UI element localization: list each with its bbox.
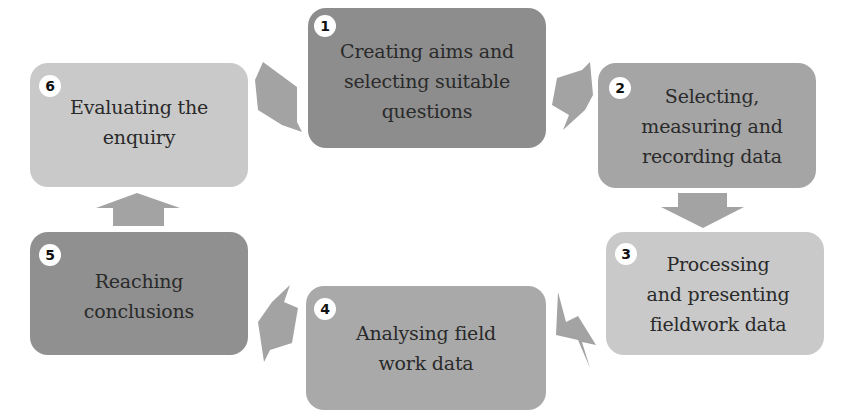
step-label: Creating aims and selecting suitable que… — [340, 30, 514, 126]
step-number-badge: 4 — [314, 298, 336, 320]
step-number-badge: 1 — [314, 15, 336, 37]
step-box-2: 2 Selecting, measuring and recording dat… — [598, 63, 816, 188]
step-number-badge: 2 — [609, 77, 631, 99]
step-label: Analysing field work data — [356, 318, 496, 378]
step-box-3: 3 Processing and presenting fieldwork da… — [606, 232, 824, 355]
step-label: Evaluating the enquiry — [70, 92, 208, 158]
step-label: Reaching conclusions — [84, 262, 194, 326]
step-box-4: 4 Analysing field work data — [306, 286, 546, 410]
arrow-1-to-2-icon — [552, 62, 593, 130]
arrow-6-to-1-icon — [255, 62, 302, 132]
step-box-5: 5 Reaching conclusions — [30, 232, 248, 355]
arrow-3-to-4-icon — [556, 292, 596, 368]
step-number-badge: 3 — [615, 243, 637, 265]
arrow-4-to-5-icon — [258, 285, 298, 362]
arrow-5-to-6-icon — [96, 193, 180, 226]
arrow-2-to-3-icon — [661, 193, 744, 228]
step-box-6: 6 Evaluating the enquiry — [30, 63, 248, 187]
step-number-badge: 5 — [39, 244, 61, 266]
enquiry-cycle-diagram: 1 Creating aims and selecting suitable q… — [0, 0, 856, 419]
step-number-badge: 6 — [39, 75, 61, 97]
step-label: Selecting, measuring and recording data — [631, 81, 782, 171]
step-box-1: 1 Creating aims and selecting suitable q… — [308, 8, 546, 148]
step-label: Processing and presenting fieldwork data — [641, 249, 790, 339]
